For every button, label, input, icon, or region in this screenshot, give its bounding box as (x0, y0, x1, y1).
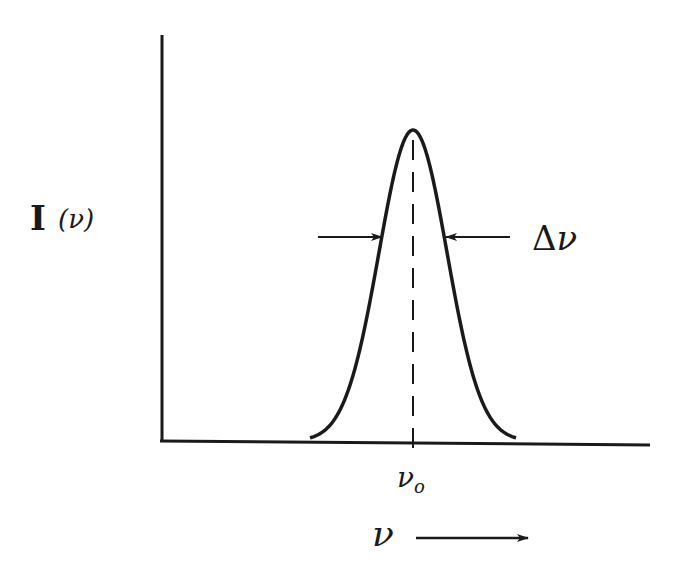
center-label-subscript: o (414, 476, 425, 497)
width-label: Δν (532, 218, 577, 258)
width-label-delta: Δ (532, 218, 557, 258)
y-axis-label-main: I (30, 198, 46, 238)
line-profile-diagram: I (ν) Δν νo ν (0, 0, 681, 582)
y-axis-label-arg: (ν) (58, 204, 94, 234)
x-axis-label: ν (372, 513, 394, 554)
center-label: νo (397, 461, 425, 497)
center-label-nu: ν (397, 461, 414, 494)
width-label-nu: ν (557, 218, 578, 258)
x-axis (160, 441, 650, 445)
